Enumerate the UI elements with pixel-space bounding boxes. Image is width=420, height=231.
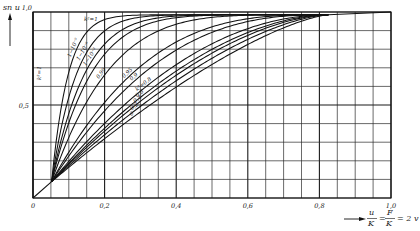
limit-curve-label-top: k²=1	[84, 16, 98, 22]
chart: 1−10⁻⁹1−10⁻⁶1−10⁻³0,990,950,9k²=0,80,60,…	[0, 0, 420, 231]
x-title-den2: K	[385, 219, 393, 228]
limit-curve-label-axis: k²=1	[36, 66, 42, 80]
x-tick-label: 0,4	[171, 202, 181, 210]
curve-series-2	[52, 15, 329, 182]
y-axis-title: sn u	[3, 3, 20, 12]
curve-series-4	[52, 15, 329, 182]
curve-series-10	[52, 15, 329, 182]
curve-series-0	[52, 15, 329, 182]
curve-series-8	[52, 15, 329, 182]
curve-series-6	[52, 15, 329, 182]
x-axis-title: u K = F K = 2 v	[344, 208, 419, 228]
y-tick-label: 1,0	[22, 4, 32, 12]
curve-series-3	[52, 15, 329, 182]
x-tick-label: 0,8	[314, 202, 324, 210]
x-title-num1: u	[369, 208, 374, 217]
curve-series-7	[52, 15, 329, 182]
grid	[33, 12, 391, 198]
curve-series-1	[52, 15, 329, 182]
right-arrow-icon	[344, 217, 366, 221]
x-title-rhs: = 2 v	[397, 214, 419, 223]
curve-series-5	[52, 15, 329, 182]
x-tick-label: 0,2	[99, 202, 109, 210]
x-title-den1: K	[367, 219, 375, 228]
x-tick-label: 0,6	[243, 202, 253, 210]
x-tick-label: 0	[31, 202, 35, 210]
x-title-eq1: =	[379, 214, 386, 223]
curve-series-11	[52, 15, 329, 182]
x-title-num2: F	[386, 208, 393, 217]
up-arrow-icon	[8, 13, 12, 46]
lead-in-line	[33, 182, 52, 198]
y-tick-label: 0,5	[19, 102, 29, 110]
curve-series-9	[52, 15, 329, 182]
